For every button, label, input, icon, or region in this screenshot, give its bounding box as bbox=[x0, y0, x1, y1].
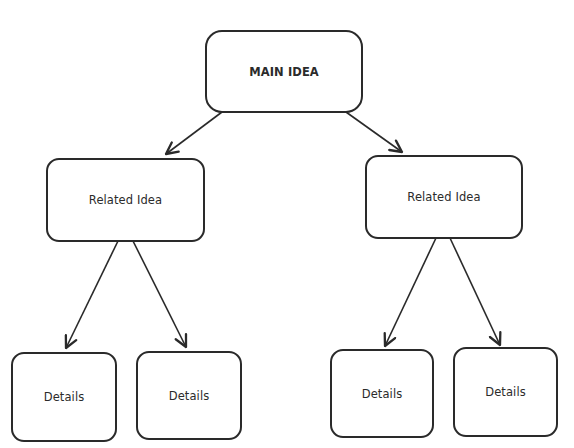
arrow-related_left-to-details_2 bbox=[133, 241, 186, 347]
main-idea-label: MAIN IDEA bbox=[249, 65, 319, 79]
details-node-4: Details bbox=[453, 347, 558, 437]
main-idea-node: MAIN IDEA bbox=[205, 30, 363, 113]
details-label-2: Details bbox=[169, 389, 210, 403]
details-node-2: Details bbox=[136, 351, 242, 440]
details-label-4: Details bbox=[485, 385, 526, 399]
arrow-main-to-related_left bbox=[166, 112, 222, 154]
details-label-1: Details bbox=[44, 390, 85, 404]
arrow-related_left-to-details_1 bbox=[66, 241, 118, 348]
arrow-related_right-to-details_3 bbox=[385, 238, 436, 346]
details-node-3: Details bbox=[330, 349, 434, 438]
related-idea-left-node: Related Idea bbox=[46, 158, 205, 242]
details-label-3: Details bbox=[362, 387, 403, 401]
related-idea-right-label: Related Idea bbox=[407, 190, 480, 204]
arrow-main-to-related_right bbox=[346, 112, 402, 152]
details-node-1: Details bbox=[11, 352, 117, 442]
related-idea-right-node: Related Idea bbox=[365, 155, 523, 239]
related-idea-left-label: Related Idea bbox=[89, 193, 162, 207]
arrow-related_right-to-details_4 bbox=[450, 238, 500, 345]
